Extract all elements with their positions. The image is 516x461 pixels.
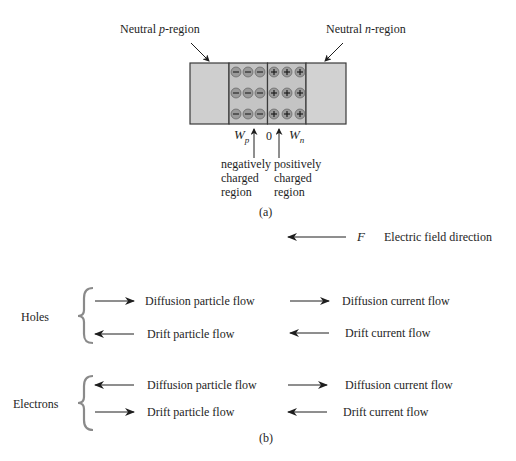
electrons-label: Electrons: [13, 397, 58, 411]
figure-a-caption: (a): [259, 205, 272, 219]
label-line: positively: [274, 157, 321, 171]
electrons-drift-particle-label: Drift particle flow: [147, 405, 234, 419]
label-line: region: [221, 185, 271, 199]
holes-label: Holes: [21, 310, 49, 324]
label-line: negatively: [221, 157, 271, 171]
wp-subscript: p: [245, 135, 250, 145]
wn-symbol: W: [289, 127, 300, 142]
neutral-n-region: [306, 63, 346, 124]
label-line: charged: [221, 171, 271, 185]
electrons-diffusion-particle-label: Diffusion particle flow: [147, 378, 257, 392]
holes-diffusion-current-label: Diffusion current flow: [342, 294, 450, 308]
label-prefix: Neutral: [120, 22, 159, 36]
wn-subscript: n: [300, 135, 305, 145]
wp-symbol: W: [234, 127, 245, 142]
electrons-diffusion-current-label: Diffusion current flow: [345, 378, 453, 392]
electrons-drift-current-label: Drift current flow: [343, 405, 428, 419]
neutral-p-region-label: Neutral p-region: [120, 22, 200, 36]
field-symbol: F: [357, 230, 365, 244]
label-suffix: -region: [165, 22, 200, 36]
figure-b-caption: (b): [259, 431, 273, 445]
holes-diffusion-particle-label: Diffusion particle flow: [145, 294, 255, 308]
n-region-pointer-arrow: [325, 43, 343, 61]
negatively-charged-region-label: negatively charged region: [221, 157, 271, 199]
electrons-brace: [78, 376, 93, 430]
label-line: charged: [274, 171, 321, 185]
label-suffix: -region: [371, 22, 406, 36]
neutral-n-region-label: Neutral n-region: [326, 22, 406, 36]
label-line: region: [274, 185, 321, 199]
holes-drift-current-label: Drift current flow: [345, 326, 430, 340]
neutral-p-region: [190, 63, 229, 124]
wp-label: Wp: [234, 128, 249, 147]
label-prefix: Neutral: [326, 22, 365, 36]
positively-charged-region-label: positively charged region: [274, 157, 321, 199]
p-region-pointer-arrow: [191, 43, 209, 61]
holes-drift-particle-label: Drift particle flow: [147, 327, 234, 341]
field-direction-label: Electric field direction: [384, 230, 492, 244]
wn-label: Wn: [289, 128, 304, 147]
origin-label: 0: [266, 129, 272, 143]
holes-brace: [78, 288, 93, 343]
pn-junction-block: [190, 63, 346, 124]
